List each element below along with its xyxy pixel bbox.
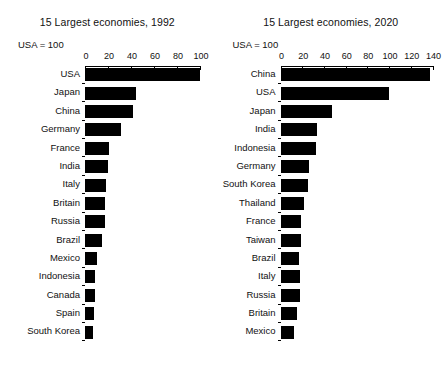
x-tick-label: 80 xyxy=(173,51,183,61)
bar-row: Brazil xyxy=(85,232,200,250)
category-label: Brazil xyxy=(252,251,276,264)
bar xyxy=(85,197,105,210)
bar-row: India xyxy=(85,158,200,176)
x-tick-label: 100 xyxy=(383,51,398,61)
bar xyxy=(281,215,302,228)
bar xyxy=(281,160,309,173)
category-label: Germany xyxy=(236,159,275,172)
bar-row: France xyxy=(85,140,200,158)
bar-row: Taiwan xyxy=(281,232,433,250)
x-tick: 100 xyxy=(200,66,201,70)
bar-row: India xyxy=(281,121,433,139)
bar-row: Russia xyxy=(85,213,200,231)
category-label: China xyxy=(55,104,80,117)
bar-row: China xyxy=(85,103,200,121)
bar xyxy=(85,160,108,173)
bar-row: Germany xyxy=(281,158,433,176)
bar-row: Germany xyxy=(85,121,200,139)
bar-rows-2020: ChinaUSAJapanIndiaIndonesiaGermanySouth … xyxy=(281,66,433,342)
category-label: Indonesia xyxy=(234,141,275,154)
bar-row: Spain xyxy=(85,305,200,323)
x-tick-label: 0 xyxy=(83,51,88,61)
bar-row: Thailand xyxy=(281,195,433,213)
category-label: France xyxy=(50,141,80,154)
bar-row: Italy xyxy=(281,268,433,286)
bar-row: South Korea xyxy=(85,323,200,341)
x-tick-label: 60 xyxy=(342,51,352,61)
chart-title-1992: 15 Largest economies, 1992 xyxy=(0,16,223,28)
bar xyxy=(281,289,301,302)
x-tick-label: 60 xyxy=(150,51,160,61)
bar-row: Britain xyxy=(85,195,200,213)
chart-panel-1992: 15 Largest economies, 1992 USA = 100 020… xyxy=(0,0,223,374)
bar xyxy=(85,234,102,247)
bar xyxy=(85,179,106,192)
bar xyxy=(85,252,97,265)
x-tick: 140 xyxy=(433,66,434,70)
bar-row: Brazil xyxy=(281,250,433,268)
two-panel-bar-chart-figure: 15 Largest economies, 1992 USA = 100 020… xyxy=(0,0,445,374)
bar xyxy=(85,142,109,155)
chart-title-2020: 15 Largest economies, 2020 xyxy=(223,16,445,28)
bar xyxy=(281,307,297,320)
x-tick-label: 40 xyxy=(127,51,137,61)
y-tick xyxy=(278,340,281,341)
category-label: Taiwan xyxy=(246,233,276,246)
category-label: Germany xyxy=(41,122,80,135)
x-tick-label: 80 xyxy=(363,51,373,61)
category-label: Britain xyxy=(53,196,80,209)
chart-panel-2020: 15 Largest economies, 2020 USA = 100 020… xyxy=(223,0,445,374)
category-label: Thailand xyxy=(239,196,275,209)
bar xyxy=(85,270,95,283)
bar-row: China xyxy=(281,66,433,84)
bar-row: Italy xyxy=(85,176,200,194)
bar xyxy=(281,87,390,100)
bar-row: Britain xyxy=(281,305,433,323)
bar xyxy=(85,326,93,339)
category-label: India xyxy=(255,122,276,135)
category-label: USA xyxy=(256,85,276,98)
category-label: Russia xyxy=(246,288,275,301)
category-label: Britain xyxy=(249,306,276,319)
category-label: Japan xyxy=(54,85,80,98)
y-tick xyxy=(82,340,85,341)
x-tick-label: 140 xyxy=(426,51,441,61)
category-label: China xyxy=(251,67,276,80)
category-label: Mexico xyxy=(50,251,80,264)
x-tick-label: 40 xyxy=(320,51,330,61)
chart-annotation-1992: USA = 100 xyxy=(18,39,64,50)
category-label: Italy xyxy=(258,269,275,282)
bar-row: USA xyxy=(85,66,200,84)
category-label: Indonesia xyxy=(39,269,80,282)
bar-row: Indonesia xyxy=(85,268,200,286)
x-tick-label: 100 xyxy=(193,51,208,61)
bar-row: USA xyxy=(281,84,433,102)
bar xyxy=(85,289,95,302)
x-tick-label: 0 xyxy=(279,51,284,61)
bar-row: Mexico xyxy=(85,250,200,268)
bar xyxy=(281,123,318,136)
bar-row: France xyxy=(281,213,433,231)
category-label: Mexico xyxy=(245,324,275,337)
bar-row: Russia xyxy=(281,287,433,305)
bar-row: Canada xyxy=(85,287,200,305)
bar xyxy=(281,270,301,283)
category-label: Japan xyxy=(250,104,276,117)
category-label: USA xyxy=(60,67,80,80)
x-tick-label: 20 xyxy=(298,51,308,61)
category-label: Spain xyxy=(56,306,80,319)
bar xyxy=(85,68,200,81)
bar-row: South Korea xyxy=(281,176,433,194)
chart-annotation-2020: USA = 100 xyxy=(233,39,279,50)
x-tick-label: 120 xyxy=(404,51,419,61)
bar xyxy=(85,123,121,136)
bar xyxy=(85,87,136,100)
bar xyxy=(281,179,308,192)
bar xyxy=(281,105,332,118)
bar-row: Japan xyxy=(281,103,433,121)
bar-row: Mexico xyxy=(281,323,433,341)
category-label: Canada xyxy=(47,288,80,301)
category-label: South Korea xyxy=(27,324,80,337)
bar xyxy=(281,234,302,247)
bar xyxy=(85,307,94,320)
